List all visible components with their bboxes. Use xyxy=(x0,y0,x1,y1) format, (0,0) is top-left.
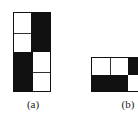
cell-b-r2-c2 xyxy=(110,75,128,92)
cell-a-r3-c1 xyxy=(14,52,32,72)
cell-a-r4-c2 xyxy=(32,72,50,92)
cell-b-r1-c2 xyxy=(110,58,128,75)
figure-a-label: (a) xyxy=(20,98,46,110)
cell-b-r2-c1 xyxy=(92,75,110,92)
cell-b-r1-c1 xyxy=(92,58,110,75)
figure-b-label: (b) xyxy=(115,98,138,110)
cell-a-r1-c2 xyxy=(32,13,50,33)
cell-a-r4-c1 xyxy=(14,72,32,92)
cell-a-r2-c2 xyxy=(32,33,50,53)
figure-b-grid xyxy=(91,57,138,92)
cell-a-r2-c1 xyxy=(14,33,32,53)
cell-b-r1-c3 xyxy=(128,58,138,75)
figure-a-grid xyxy=(13,12,51,92)
cell-a-r3-c2 xyxy=(32,52,50,72)
cell-b-r2-c3 xyxy=(128,75,138,92)
cell-a-r1-c1 xyxy=(14,13,32,33)
